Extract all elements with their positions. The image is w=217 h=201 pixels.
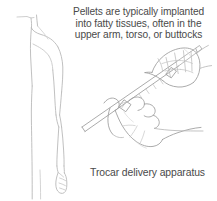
instruction-caption-line-2: into fatty tissues, often in the [62, 18, 215, 30]
instruction-caption: Pellets are typically implanted into fat… [62, 6, 215, 41]
lower-hand-drawing [104, 97, 203, 147]
trocar-apparatus-drawing [82, 45, 212, 148]
apparatus-label: Trocar delivery apparatus [85, 167, 210, 179]
body-profile-drawing [17, 15, 67, 199]
trocar-barrel-markings [139, 80, 163, 99]
trocar-hub-collar [119, 100, 131, 112]
shading-strokes [124, 48, 192, 148]
instruction-caption-line-1: Pellets are typically implanted [62, 6, 215, 18]
illustration-figure: Pellets are typically implanted into fat… [0, 0, 217, 201]
instruction-caption-line-3: upper arm, torso, or buttocks [62, 29, 215, 41]
